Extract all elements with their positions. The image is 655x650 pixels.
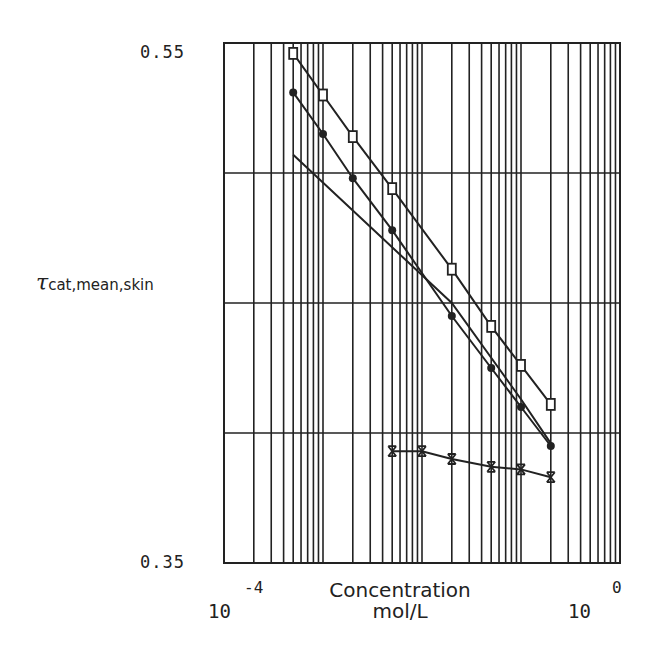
x-tick-left: 10-4: [208, 600, 231, 622]
circle-marker: [289, 88, 297, 96]
x-tick-right-base: 10: [568, 600, 591, 622]
y-axis-label-subscript: cat,mean,skin: [48, 276, 154, 294]
square-marker: [349, 131, 357, 142]
square-marker: [319, 90, 327, 101]
grid-lines: [224, 43, 620, 563]
circle-marker: [487, 364, 495, 372]
x-axis-label-title: Concentration: [320, 580, 480, 601]
y-tick-bottom: 0.35: [140, 552, 185, 572]
chart-plot-area: [0, 0, 655, 650]
y-tick-top: 0.55: [140, 42, 185, 62]
square-marker: [517, 360, 525, 371]
x-tick-left-exp: -4: [244, 578, 263, 597]
x-axis-label: Concentration mol/L: [320, 580, 480, 622]
x-tick-right: 100: [568, 600, 591, 622]
x-tick-left-base: 10: [208, 600, 231, 622]
circle-marker: [319, 130, 327, 138]
x-axis-label-units: mol/L: [320, 601, 480, 622]
y-axis-label: τcat,mean,skin: [36, 270, 154, 295]
tau-symbol: τ: [36, 270, 48, 295]
square-marker: [547, 399, 555, 410]
square-marker: [388, 183, 396, 194]
square-marker: [487, 321, 495, 332]
series-line: [392, 451, 551, 477]
circle-marker: [388, 226, 396, 234]
circle-marker: [448, 312, 456, 320]
square-marker: [289, 48, 297, 59]
circle-marker: [349, 174, 357, 182]
x-tick-right-exp: 0: [612, 578, 622, 597]
square-marker: [448, 264, 456, 275]
